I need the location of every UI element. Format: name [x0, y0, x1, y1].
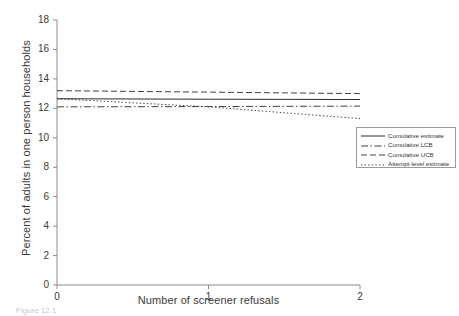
legend-item-label: Cumulative estimate — [388, 133, 444, 139]
x-tick-label: 0 — [47, 291, 67, 302]
legend-item: Attempt-level estimate — [360, 160, 449, 170]
legend-line-swatch — [360, 142, 386, 150]
y-tick-label: 12 — [17, 102, 49, 113]
y-tick-label: 6 — [17, 191, 49, 202]
x-tick-label: 2 — [350, 291, 370, 302]
y-tick-marks — [53, 20, 57, 285]
data-series-group — [57, 91, 360, 119]
y-axis-title: Percent of adults in one person househol… — [20, 28, 32, 268]
series-line — [57, 99, 360, 100]
legend-line-swatch — [360, 132, 386, 140]
chart-legend: Cumulative estimateCumulative LCBCumulat… — [356, 127, 456, 168]
legend-line-swatch — [360, 151, 386, 159]
y-tick-label: 4 — [17, 220, 49, 231]
y-tick-label: 0 — [17, 279, 49, 290]
legend-item: Cumulative UCB — [360, 150, 434, 160]
series-line — [57, 91, 360, 94]
legend-item: Cumulative LCB — [360, 141, 433, 151]
y-tick-label: 18 — [17, 14, 49, 25]
y-tick-label: 14 — [17, 73, 49, 84]
figure-caption: Figure 12.1 — [16, 306, 56, 315]
series-line — [57, 99, 360, 119]
y-tick-label: 2 — [17, 250, 49, 261]
y-tick-label: 8 — [17, 161, 49, 172]
legend-line-swatch — [360, 161, 386, 169]
figure-container: Percent of adults in one person househol… — [0, 0, 459, 316]
legend-item-label: Attempt-level estimate — [388, 161, 449, 167]
y-tick-label: 16 — [17, 43, 49, 54]
y-tick-label: 10 — [17, 132, 49, 143]
legend-item: Cumulative estimate — [360, 131, 444, 141]
x-tick-label: 1 — [199, 291, 219, 302]
legend-item-label: Cumulative LCB — [388, 142, 433, 148]
x-tick-marks — [57, 285, 360, 289]
legend-item-label: Cumulative UCB — [388, 152, 434, 158]
